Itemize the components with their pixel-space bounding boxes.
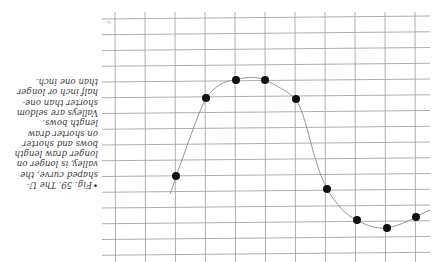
- data-point: [172, 172, 180, 180]
- caption-line: length bows.: [20, 118, 98, 128]
- caption-line: Valleys are seldom: [20, 108, 98, 118]
- figure-caption: •Fig. 59. The U-shaped curve, thevalley,…: [20, 72, 98, 190]
- caption-line: longer draw length: [20, 149, 98, 159]
- caption-line: bows and shorter: [20, 139, 98, 149]
- data-point: [383, 224, 391, 232]
- caption-line: half inch or longer: [20, 87, 98, 97]
- caption-line: valley, is longer on: [20, 159, 98, 169]
- caption-line: on shorter draw: [20, 128, 98, 138]
- data-point: [202, 94, 210, 102]
- grid-corner-mark: ~%: [104, 20, 111, 25]
- data-point: [353, 216, 361, 224]
- data-point: [412, 213, 420, 221]
- data-point: [323, 185, 331, 193]
- caption-line: shorter than one-: [20, 97, 98, 107]
- data-point: [261, 76, 269, 84]
- caption-line: than one inch.: [20, 77, 98, 87]
- data-point: [292, 95, 300, 103]
- data-points: [172, 76, 420, 232]
- caption-line: shaped curve, the: [20, 169, 98, 179]
- data-point: [232, 76, 240, 84]
- caption-line: •Fig. 59. The U-: [20, 180, 98, 190]
- graph-paper-grid: [102, 12, 430, 262]
- bullet-icon: •: [92, 180, 98, 190]
